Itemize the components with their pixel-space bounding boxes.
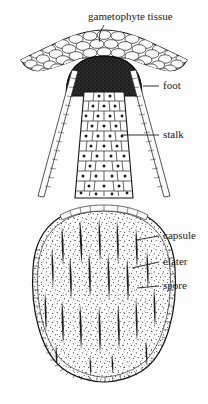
label-spore: spore xyxy=(163,279,187,291)
label-foot: foot xyxy=(163,79,181,91)
label-gametophyte-tissue: gametophyte tissue xyxy=(88,10,173,22)
label-capsule: capsule xyxy=(163,229,196,241)
label-stalk: stalk xyxy=(163,128,184,140)
foot-structure xyxy=(66,56,141,96)
sporophyte-diagram: gametophyte tissue foot stalk capsule el… xyxy=(0,0,208,404)
stalk-structure xyxy=(73,92,135,198)
label-elater: elater xyxy=(163,255,188,267)
